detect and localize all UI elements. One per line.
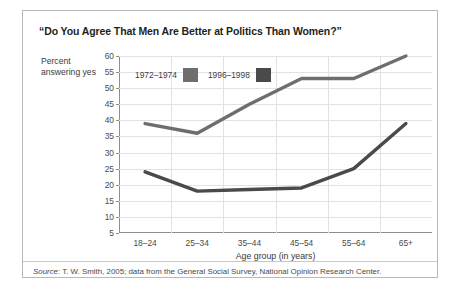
- legend-label: 1996–1998: [208, 70, 250, 80]
- source-label: Source:: [33, 267, 60, 276]
- y-tick-label: 5: [109, 228, 114, 238]
- y-tick-label: 35: [105, 131, 114, 141]
- y-tick-label: 15: [105, 196, 114, 206]
- chart-figure: “Do You Agree That Men Are Better at Pol…: [22, 10, 438, 278]
- y-tick-label: 45: [105, 99, 114, 109]
- legend-swatch: [256, 68, 271, 82]
- series-line: [145, 124, 406, 192]
- y-tick-label: 60: [105, 51, 114, 61]
- x-tick-label: 18–24: [133, 238, 156, 248]
- chart-title: “Do You Agree That Men Are Better at Pol…: [39, 25, 342, 37]
- y-tick-label: 30: [105, 148, 114, 158]
- y-tick-mark: [116, 233, 119, 234]
- x-tick-label: 65+: [399, 238, 413, 248]
- source-divider: [23, 261, 437, 262]
- y-tick-label: 10: [105, 212, 114, 222]
- x-tick-label: 55–64: [342, 238, 365, 248]
- plot-area: 51015202530354045505560 18–2425–3435–444…: [119, 56, 432, 233]
- legend-item: 1996–1998: [208, 68, 271, 82]
- x-axis-title: Age group (in years): [119, 251, 432, 261]
- source-text: T. W. Smith, 2005; data from the General…: [60, 267, 381, 276]
- y-axis-title: Percent answering yes: [41, 56, 103, 78]
- y-tick-label: 55: [105, 67, 114, 77]
- x-tick-label: 45–54: [290, 238, 313, 248]
- y-tick-label: 20: [105, 180, 114, 190]
- x-tick-label: 35–44: [238, 238, 261, 248]
- series-lines: [119, 56, 432, 233]
- y-tick-label: 40: [105, 115, 114, 125]
- y-tick-label: 25: [105, 164, 114, 174]
- legend-item: 1972–1974: [135, 68, 198, 82]
- x-tick-label: 25–34: [186, 238, 209, 248]
- chart-legend: 1972–19741996–1998: [135, 68, 271, 82]
- legend-label: 1972–1974: [135, 70, 177, 80]
- source-note: Source: T. W. Smith, 2005; data from the…: [33, 267, 381, 276]
- y-tick-label: 50: [105, 83, 114, 93]
- legend-swatch: [183, 68, 198, 82]
